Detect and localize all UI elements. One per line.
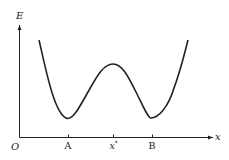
tick-label-a: A bbox=[64, 140, 72, 151]
tick-label-x-star: x* bbox=[110, 139, 118, 151]
tick-label-b: B bbox=[149, 140, 156, 151]
x-axis-label: x bbox=[215, 131, 221, 142]
energy-curve bbox=[39, 40, 188, 118]
origin-label: O bbox=[11, 141, 19, 152]
energy-diagram: E x O A x* B bbox=[0, 0, 229, 160]
y-axis-label: E bbox=[15, 10, 24, 21]
